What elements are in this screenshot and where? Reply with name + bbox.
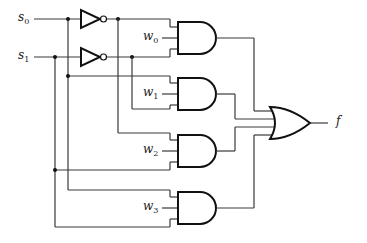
mux-circuit-diagram: s0 s1 w0 w1 w2 w3 f (0, 0, 367, 243)
not-gate-s1 (81, 48, 107, 66)
label-w3: w3 (143, 200, 158, 215)
label-w0: w0 (143, 30, 158, 45)
or-gate (270, 107, 310, 139)
and-gate-w3 (178, 192, 216, 224)
label-w2: w2 (143, 143, 158, 158)
data-input-stubs (162, 38, 178, 208)
circuit-svg (0, 0, 367, 243)
not-gate-s0 (81, 10, 107, 28)
label-w1: w1 (143, 86, 158, 101)
and-gate-w1 (178, 78, 216, 110)
label-s0: s0 (18, 11, 29, 26)
and-gate-w2 (178, 135, 216, 167)
and-gate-w0 (178, 22, 216, 54)
label-s1: s1 (18, 49, 29, 64)
label-f: f (336, 115, 340, 127)
and-to-or-wires (216, 38, 275, 208)
